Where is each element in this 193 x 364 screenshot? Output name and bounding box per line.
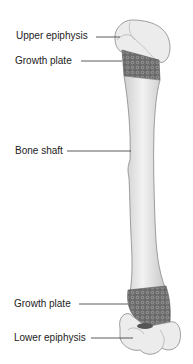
label-lower-epiphysis: Lower epiphysis [14, 332, 86, 344]
bone-shaft-shape [124, 76, 166, 292]
label-upper-epiphysis: Upper epiphysis [16, 30, 88, 42]
label-growth-plate-lower: Growth plate [14, 298, 71, 310]
label-growth-plate-upper: Growth plate [15, 55, 72, 67]
label-bone-shaft: Bone shaft [15, 145, 63, 157]
